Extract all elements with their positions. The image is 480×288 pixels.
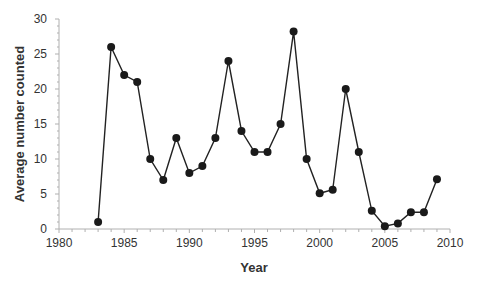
y-tick-label: 5: [40, 187, 47, 201]
data-point-marker: [342, 85, 350, 93]
y-tick-label: 25: [34, 47, 48, 61]
data-point-marker: [185, 169, 193, 177]
data-point-marker: [290, 28, 298, 36]
x-tick-label: 1985: [111, 236, 138, 250]
data-point-marker: [277, 120, 285, 128]
chart-canvas: 0510152025301980198519901995200020052010…: [0, 0, 480, 288]
x-tick-label: 1990: [176, 236, 203, 250]
data-point-marker: [172, 134, 180, 142]
data-point-marker: [120, 71, 128, 79]
y-tick-label: 10: [34, 152, 48, 166]
data-point-marker: [237, 127, 245, 135]
data-point-marker: [407, 208, 415, 216]
data-point-marker: [316, 189, 324, 197]
data-point-marker: [133, 78, 141, 86]
data-point-marker: [355, 148, 363, 156]
data-point-marker: [198, 162, 206, 170]
data-point-marker: [224, 57, 232, 65]
data-point-marker: [107, 43, 115, 51]
y-tick-label: 15: [34, 117, 48, 131]
plot-area: [94, 28, 441, 231]
data-point-marker: [303, 155, 311, 163]
data-point-marker: [433, 175, 441, 183]
data-point-marker: [329, 186, 337, 194]
data-point-marker: [394, 219, 402, 227]
data-point-marker: [94, 218, 102, 226]
series-line: [98, 32, 437, 227]
y-tick-label: 20: [34, 82, 48, 96]
x-tick-label: 2005: [371, 236, 398, 250]
y-tick-label: 30: [34, 12, 48, 26]
x-tick-label: 1980: [46, 236, 73, 250]
data-point-marker: [251, 148, 259, 156]
data-point-marker: [381, 222, 389, 230]
data-point-marker: [368, 207, 376, 215]
x-tick-label: 2000: [306, 236, 333, 250]
x-tick-label: 2010: [437, 236, 464, 250]
x-tick-label: 1995: [241, 236, 268, 250]
data-point-marker: [264, 148, 272, 156]
y-axis-title: Average number counted: [12, 46, 27, 202]
data-point-marker: [420, 208, 428, 216]
x-axis-title: Year: [240, 260, 267, 275]
data-point-marker: [211, 134, 219, 142]
y-tick-label: 0: [40, 222, 47, 236]
data-point-marker: [159, 176, 167, 184]
line-chart: 0510152025301980198519901995200020052010…: [0, 0, 480, 288]
data-point-marker: [146, 155, 154, 163]
